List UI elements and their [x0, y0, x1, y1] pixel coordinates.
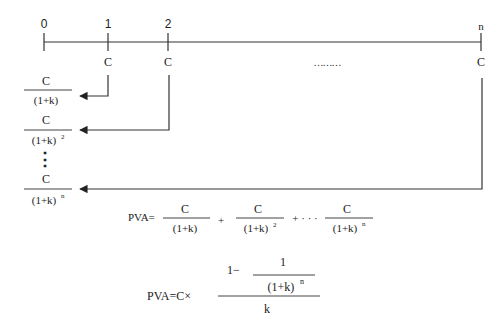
- formula-sum-lhs: PVA=: [128, 211, 155, 223]
- svg-text:C: C: [181, 202, 189, 216]
- discount-arrows: [80, 75, 482, 189]
- svg-text:(1+k): (1+k): [32, 194, 57, 207]
- svg-text:(1+k): (1+k): [32, 134, 57, 147]
- svg-text:(1+k): (1+k): [333, 222, 358, 235]
- svg-text:n: n: [300, 277, 304, 286]
- svg-text:2: 2: [273, 221, 277, 229]
- arrow-period-n: [80, 78, 482, 189]
- svg-text:+ · · ·: + · · ·: [292, 212, 317, 224]
- svg-text:C: C: [42, 172, 50, 186]
- svg-text:2: 2: [61, 133, 65, 141]
- svg-text:C: C: [343, 202, 351, 216]
- tick-label-1: 1: [105, 17, 112, 31]
- ellipsis: ………: [314, 57, 341, 68]
- tick-label-n: n: [478, 20, 484, 32]
- discounted-fraction-2: C (1+k) 2: [24, 113, 72, 147]
- svg-text:n: n: [362, 220, 366, 228]
- svg-text:n: n: [61, 192, 65, 200]
- formula-closed: PVA=C× 1− 1 (1+k) n k: [147, 255, 320, 316]
- discounted-fraction-n: C (1+k) n: [24, 172, 72, 207]
- svg-text:(1+k): (1+k): [268, 280, 295, 294]
- svg-text:(1+k): (1+k): [34, 94, 59, 107]
- tick-label-2: 2: [165, 17, 172, 31]
- svg-text:C: C: [42, 74, 50, 88]
- svg-text:1−: 1−: [227, 263, 240, 277]
- vertical-ellipsis: ⋮: [36, 149, 54, 169]
- svg-text:(1+k): (1+k): [173, 222, 198, 235]
- svg-text:C: C: [254, 202, 262, 216]
- arrow-period-1: [80, 75, 108, 96]
- arrow-period-2: [80, 75, 169, 130]
- svg-text:C: C: [42, 113, 50, 127]
- annuity-diagram: 0 1 2 n C C C ……… C (1+k) C (1+k) 2 ⋮ C …: [0, 0, 504, 327]
- cash-flow-n: C: [477, 55, 485, 69]
- formula-sum: PVA= C (1+k) + C (1+k) 2 + · · · C (1+k)…: [128, 202, 373, 235]
- svg-text:(1+k): (1+k): [244, 222, 269, 235]
- svg-text:+: +: [218, 214, 224, 226]
- svg-text:1: 1: [280, 255, 286, 269]
- cash-flow-1: C: [104, 55, 112, 69]
- formula-closed-lhs: PVA=C×: [147, 289, 191, 303]
- tick-label-0: 0: [41, 17, 48, 31]
- cash-flow-2: C: [164, 55, 172, 69]
- discounted-fraction-1: C (1+k): [24, 74, 72, 107]
- timeline: 0 1 2 n C C C ………: [41, 17, 485, 69]
- svg-text:k: k: [264, 302, 270, 316]
